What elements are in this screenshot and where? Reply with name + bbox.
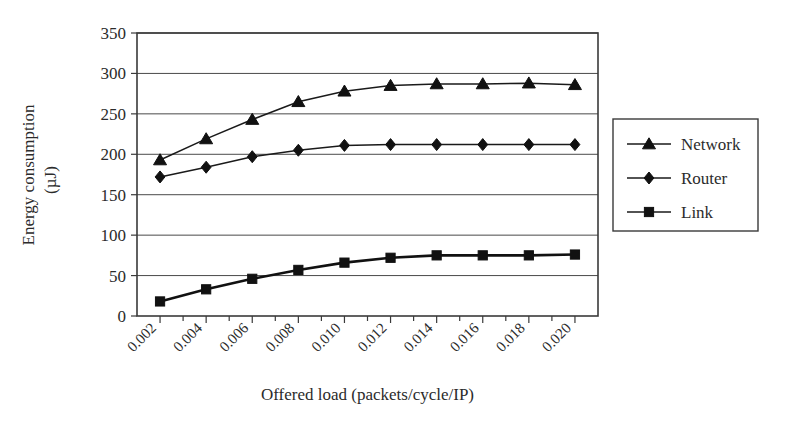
ytick-label-250: 250 — [101, 105, 127, 124]
datapoint-network-1 — [200, 133, 213, 144]
datapoint-router-4 — [340, 139, 350, 151]
datapoint-router-9 — [570, 139, 580, 151]
y-axis-title: Energy consumption — [19, 104, 38, 245]
datapoint-link-0 — [155, 297, 164, 306]
xtick-label-0.010: 0.010 — [308, 320, 343, 355]
legend: NetworkRouterLink — [613, 119, 758, 231]
series-line-link — [160, 255, 575, 302]
xtick-label-0.016: 0.016 — [447, 319, 483, 355]
legend-label-link: Link — [681, 203, 714, 222]
datapoint-link-5 — [386, 253, 395, 262]
datapoint-link-7 — [478, 251, 487, 260]
datapoint-link-8 — [524, 251, 533, 260]
xtick-label-0.004: 0.004 — [170, 319, 206, 355]
xtick-label-0.002: 0.002 — [124, 320, 159, 355]
ytick-label-50: 50 — [109, 267, 126, 286]
y-axis-title-units: (µJ) — [41, 166, 60, 194]
xtick-label-0.008: 0.008 — [262, 320, 297, 355]
energy-consumption-line-chart: 0501001502002503003500.0020.0040.0060.00… — [0, 0, 785, 421]
datapoint-router-1 — [201, 161, 211, 173]
datapoint-link-9 — [570, 250, 579, 259]
xtick-label-0.006: 0.006 — [216, 319, 252, 355]
xtick-label-0.018: 0.018 — [493, 320, 528, 355]
xtick-label-0.014: 0.014 — [401, 319, 437, 355]
datapoint-router-7 — [478, 139, 488, 151]
datapoint-network-8 — [522, 77, 535, 88]
ytick-label-150: 150 — [101, 186, 127, 205]
legend-marker-square — [644, 207, 653, 216]
ytick-label-300: 300 — [101, 64, 127, 83]
datapoint-network-0 — [154, 154, 167, 165]
axes-group: 0501001502002503003500.0020.0040.0060.00… — [19, 24, 598, 404]
datapoint-link-1 — [202, 285, 211, 294]
datapoint-router-8 — [524, 139, 534, 151]
ytick-label-200: 200 — [101, 145, 127, 164]
legend-label-router: Router — [681, 169, 728, 188]
series-line-network — [160, 83, 575, 160]
datapoint-router-6 — [432, 139, 442, 151]
datapoint-link-4 — [340, 258, 349, 267]
data-series-group — [154, 77, 582, 306]
series-network — [154, 77, 582, 165]
series-line-router — [160, 145, 575, 177]
chart-figure: 0501001502002503003500.0020.0040.0060.00… — [0, 0, 785, 421]
datapoint-router-2 — [247, 151, 257, 163]
gridlines-group — [137, 33, 598, 276]
xtick-label-0.012: 0.012 — [354, 320, 389, 355]
xtick-label-0.020: 0.020 — [539, 320, 574, 355]
datapoint-network-2 — [246, 113, 259, 124]
datapoint-link-3 — [294, 265, 303, 274]
datapoint-router-5 — [386, 139, 396, 151]
ytick-label-100: 100 — [101, 226, 127, 245]
ytick-label-0: 0 — [118, 307, 127, 326]
ytick-label-350: 350 — [101, 24, 127, 43]
legend-label-network: Network — [681, 135, 741, 154]
plot-frame — [137, 33, 598, 316]
datapoint-link-6 — [432, 251, 441, 260]
x-axis-title: Offered load (packets/cycle/IP) — [261, 385, 474, 404]
datapoint-link-2 — [248, 274, 257, 283]
datapoint-router-0 — [155, 171, 165, 183]
series-link — [155, 250, 579, 306]
series-router — [155, 139, 580, 183]
